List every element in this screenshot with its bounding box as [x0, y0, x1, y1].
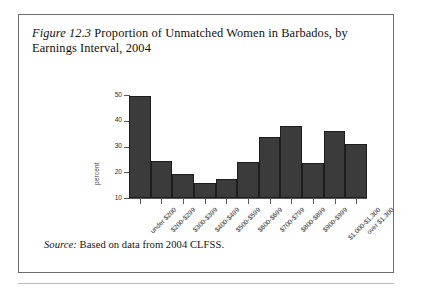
bar — [280, 126, 302, 198]
source-note: Source: Based on data from 2004 CLFSS. — [44, 239, 224, 250]
bar — [151, 161, 173, 198]
y-tick: 10 — [124, 198, 129, 199]
bar — [194, 183, 216, 198]
figure-caption: Figure 12.3 Proportion of Unmatched Wome… — [32, 26, 377, 56]
figure-frame: Figure 12.3 Proportion of Unmatched Wome… — [18, 14, 394, 273]
bar — [302, 163, 324, 198]
bar — [129, 96, 151, 198]
bar — [172, 174, 194, 198]
y-tick-label: 40 — [115, 116, 122, 123]
x-tick — [140, 199, 141, 204]
figure-number: Figure 12.3 — [32, 26, 91, 40]
x-tick — [248, 199, 249, 204]
x-tick — [335, 199, 336, 204]
x-tick — [183, 199, 184, 204]
source-label: Source: — [44, 239, 77, 250]
x-tick — [161, 199, 162, 204]
y-tick-label: 30 — [115, 142, 122, 149]
y-tick-label: 10 — [115, 194, 122, 201]
page-rule — [18, 283, 394, 284]
x-tick — [313, 199, 314, 204]
x-tick — [291, 199, 292, 204]
x-tick — [205, 199, 206, 204]
y-tick-label: 50 — [115, 91, 122, 98]
bar-chart: percent 1020304050 under $200$200-$299$3… — [19, 73, 395, 208]
source-text: Based on data from 2004 CLFSS. — [77, 239, 224, 250]
bar — [216, 179, 238, 198]
bar — [237, 162, 259, 198]
bar — [324, 131, 346, 198]
x-tick — [226, 199, 227, 204]
y-tick-label: 20 — [115, 168, 122, 175]
x-tick — [356, 199, 357, 204]
y-axis-title: percent — [93, 162, 100, 185]
bar — [345, 144, 367, 198]
x-tick — [270, 199, 271, 204]
bar — [259, 137, 281, 198]
